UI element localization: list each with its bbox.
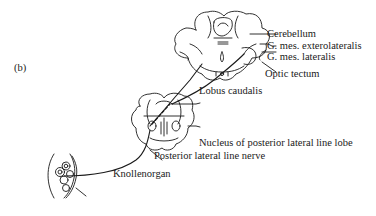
hindbrain-section-drawing bbox=[132, 93, 195, 150]
label-g-mes-exterolateralis: G. mes. exterolateralis bbox=[267, 41, 361, 52]
knollenorgan-drawing bbox=[48, 154, 77, 198]
panel-label: (b) bbox=[14, 63, 26, 74]
label-lobus-caudalis: Lobus caudalis bbox=[199, 86, 262, 97]
label-cerebellum: Cerebellum bbox=[267, 29, 316, 40]
label-nucleus-pll-lobe: Nucleus of posterior lateral line lobe bbox=[199, 138, 353, 149]
label-optic-tectum: Optic tectum bbox=[265, 69, 320, 80]
label-g-mes-lateralis: G. mes. lateralis bbox=[267, 52, 335, 63]
label-knollenorgan: Knollenorgan bbox=[113, 169, 171, 180]
midbrain-section-drawing bbox=[175, 11, 270, 80]
knollenorgan-pathway-diagram bbox=[0, 0, 376, 216]
label-posterior-lateral-line-nerve: Posterior lateral line nerve bbox=[154, 151, 265, 162]
